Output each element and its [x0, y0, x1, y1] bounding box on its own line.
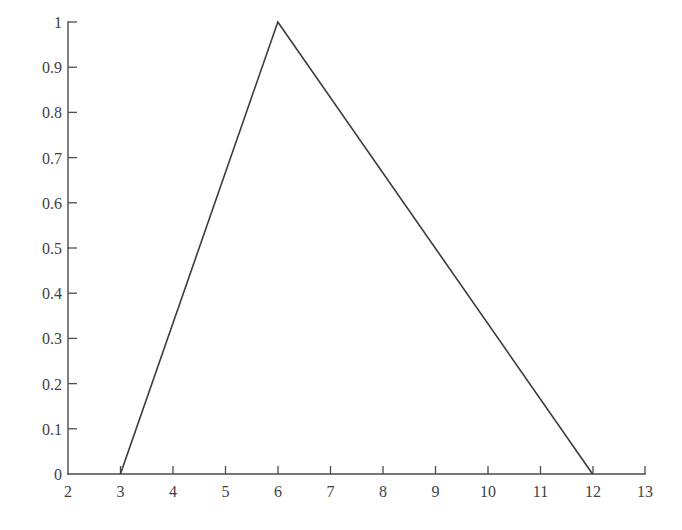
y-tick-label: 0.2	[42, 376, 62, 393]
x-tick-label: 6	[274, 483, 282, 500]
y-tick-label: 0.1	[42, 421, 62, 438]
y-tick-label: 0.7	[42, 150, 62, 167]
y-tick-label: 1	[54, 14, 62, 31]
y-axis-tick-labels: 1 0.9 0.8 0.7 0.6 0.5 0.4 0.3 0.2 0.1 0	[42, 14, 62, 483]
y-tick-label: 0.9	[42, 59, 62, 76]
y-tick-label: 0.3	[42, 330, 62, 347]
x-tick-label: 4	[169, 483, 177, 500]
y-tick-label: 0.4	[42, 285, 62, 302]
x-tick-label: 13	[637, 483, 653, 500]
data-series-line	[120, 22, 592, 474]
chart-figure: 1 0.9 0.8 0.7 0.6 0.5 0.4 0.3 0.2 0.1 0	[0, 0, 682, 530]
y-axis-ticks	[68, 22, 77, 429]
x-tick-label: 11	[533, 483, 548, 500]
x-axis-ticks	[121, 466, 646, 474]
y-tick-label: 0.8	[42, 104, 62, 121]
x-tick-label: 7	[327, 483, 335, 500]
x-tick-label: 9	[432, 483, 440, 500]
x-tick-label: 3	[117, 483, 125, 500]
x-tick-label: 8	[379, 483, 387, 500]
y-tick-label: 0	[54, 466, 62, 483]
x-tick-label: 10	[480, 483, 496, 500]
y-tick-label: 0.6	[42, 195, 62, 212]
x-tick-label: 2	[64, 483, 72, 500]
y-tick-label: 0.5	[42, 240, 62, 257]
chart-plot-area: 1 0.9 0.8 0.7 0.6 0.5 0.4 0.3 0.2 0.1 0	[0, 0, 682, 530]
x-tick-label: 5	[222, 483, 230, 500]
x-axis-tick-labels: 2 3 4 5 6 7 8 9 10 11 12 13	[64, 483, 653, 500]
x-tick-label: 12	[585, 483, 601, 500]
